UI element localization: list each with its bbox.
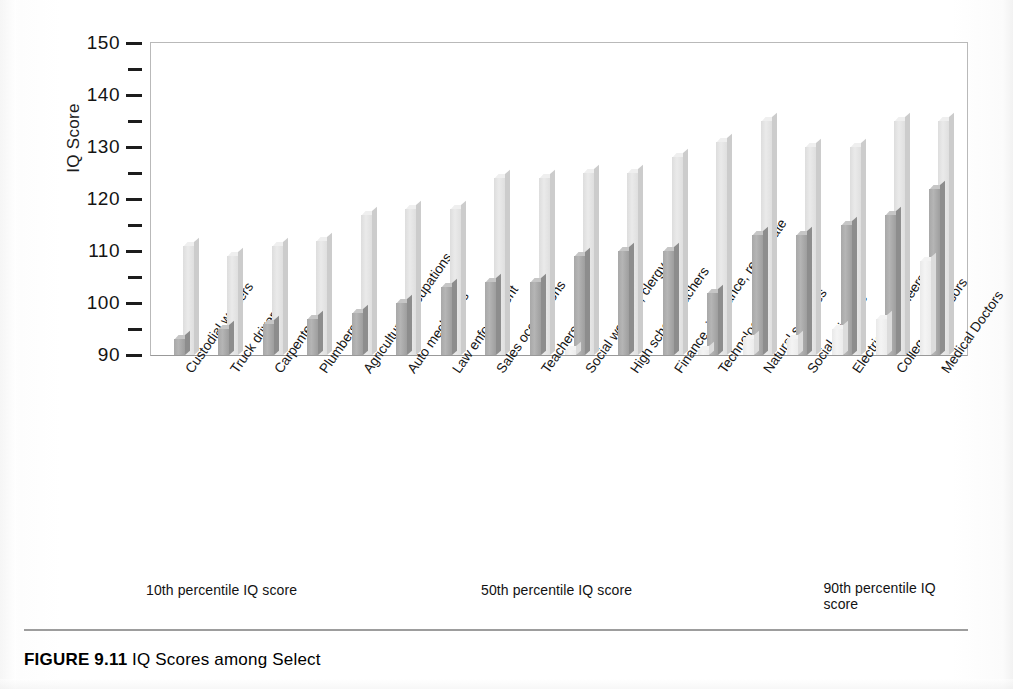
bar-side-face [416, 201, 421, 355]
bar-group [205, 43, 249, 355]
bar-side-face [949, 113, 954, 355]
bar-front-face [263, 324, 274, 355]
figure-caption-text: IQ Scores among Select [132, 650, 321, 669]
bar-side-face [496, 274, 501, 355]
y-tick-label: 120 [87, 188, 120, 210]
page-edge-bottom-shadow [0, 679, 1013, 689]
x-label-slot: Agricultural occupations [339, 357, 383, 358]
bar-p10 [565, 350, 576, 355]
bar-side-face [238, 248, 243, 355]
legend-label: 90th percentile IQ score [823, 580, 968, 612]
legend-swatch-side [137, 574, 141, 599]
bar-side-face [452, 279, 457, 355]
legend-swatch-icon [802, 587, 814, 606]
bar-group [650, 43, 694, 355]
bar-front-face [485, 282, 496, 355]
bar-group [383, 43, 427, 355]
bar-side-face [585, 248, 590, 355]
bar-side-face [594, 165, 599, 355]
y-tick-mark [126, 198, 142, 201]
legend-swatch-front [124, 580, 137, 599]
bar-front-face [307, 319, 318, 355]
bar-p50 [307, 319, 318, 355]
y-tick-label: 140 [87, 84, 120, 106]
y-tick-label: 130 [87, 136, 120, 158]
bar-front-face [441, 287, 452, 355]
bar-p50 [530, 282, 541, 355]
figure-caption-label: FIGURE 9.11 [24, 650, 127, 669]
x-label-slot: Carpenters [250, 357, 294, 358]
bar-side-face [763, 227, 768, 355]
bar-side-face [505, 170, 510, 355]
bar-side-face [905, 113, 910, 355]
legend-item-p50: 50th percentile IQ score [459, 580, 632, 599]
y-tick-mark [128, 276, 142, 279]
bar-p50 [618, 251, 629, 355]
bar-side-face [940, 180, 945, 355]
y-tick-mark [126, 42, 142, 45]
bar-p50 [263, 324, 274, 355]
y-tick-label: 110 [88, 240, 120, 262]
bar-p50 [574, 256, 585, 355]
bar-front-face [574, 256, 585, 355]
bar-group [916, 43, 960, 355]
bar-p10 [876, 319, 887, 355]
bar-side-face [718, 284, 723, 355]
bar-p50 [485, 282, 496, 355]
bar-side-face [318, 310, 323, 355]
bar-side-face [896, 206, 901, 355]
legend-swatch-icon [124, 580, 137, 599]
x-label-slot: Electrical engineers [828, 357, 872, 358]
y-tick-label: 90 [98, 344, 120, 366]
y-tick-mark [128, 120, 142, 123]
bar-side-face [931, 253, 936, 355]
x-label-slot: Social workers, clergy [561, 357, 605, 358]
bar-group [250, 43, 294, 355]
y-tick-mark [128, 224, 142, 227]
bar-side-face [461, 201, 466, 355]
x-label-slot: Finance, insurance, real estate [650, 357, 694, 358]
bar-group [694, 43, 738, 355]
bar-side-face [816, 139, 821, 355]
bar-side-face [772, 113, 777, 355]
legend-swatch-icon [459, 580, 472, 599]
bar-front-face [352, 313, 363, 355]
bar-group [517, 43, 561, 355]
bar-group [872, 43, 916, 355]
y-tick-mark [126, 354, 142, 357]
bar-side-face [629, 243, 634, 355]
y-tick-mark [126, 94, 142, 97]
bar-side-face [407, 295, 412, 355]
bar-group [783, 43, 827, 355]
bar-p50 [174, 339, 185, 355]
bar-front-face [920, 261, 931, 355]
bar-front-face [743, 339, 754, 355]
chart-legend: 10th percentile IQ score50th percentile … [84, 580, 968, 608]
bar-p50 [218, 329, 229, 355]
x-label-slot: Natural sciences [739, 357, 783, 358]
bar-p10 [743, 339, 754, 355]
bar-front-face [876, 319, 887, 355]
bar-p50 [441, 287, 452, 355]
legend-item-p90: 90th percentile IQ score [802, 580, 968, 612]
bar-front-face [787, 339, 798, 355]
bar-group [339, 43, 383, 355]
x-axis-labels: Custodial workersTruck driversCarpenters… [151, 357, 967, 358]
bar-group [472, 43, 516, 355]
figure-caption: FIGURE 9.11 IQ Scores among Select [24, 650, 321, 670]
y-tick-mark [126, 146, 142, 149]
bar-front-face [832, 329, 843, 355]
y-tick-label: 100 [87, 292, 120, 314]
bar-group [739, 43, 783, 355]
bar-side-face [638, 165, 643, 355]
bar-p50 [396, 303, 407, 355]
bar-p10 [920, 261, 931, 355]
bar-group [428, 43, 472, 355]
x-label-slot: Plumbers [294, 357, 338, 358]
bar-p50 [663, 251, 674, 355]
x-label-slot: Custodial workers [161, 357, 205, 358]
bar-side-face [852, 217, 857, 355]
bar-p10 [787, 339, 798, 355]
x-label-slot: High school teachers [605, 357, 649, 358]
x-label-slot: College professors [872, 357, 916, 358]
